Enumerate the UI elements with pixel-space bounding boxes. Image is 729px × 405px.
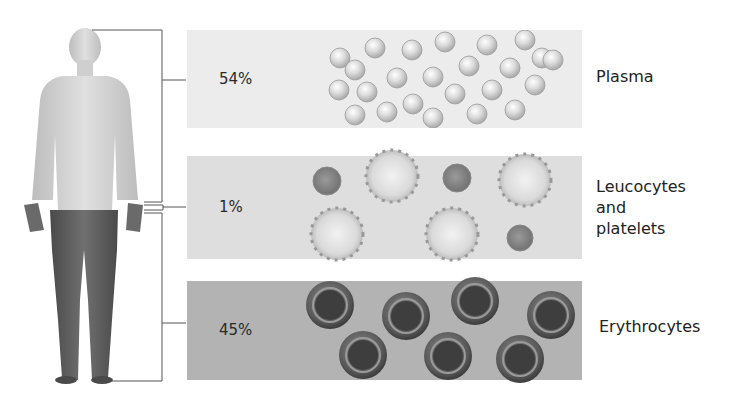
- erythrocytes-panel: 45%: [187, 281, 582, 380]
- leucocytes-label-line-3: platelets: [596, 218, 686, 239]
- leucocytes-label-line-2: and: [596, 197, 686, 218]
- leucocytes-label-line-1: Leucocytes: [596, 176, 686, 197]
- plasma-panel: 54%: [187, 30, 582, 128]
- leucocyte-cells: [187, 156, 582, 276]
- erythrocytes-label: Erythrocytes: [599, 316, 700, 337]
- plasma-droplets: [187, 30, 582, 128]
- leucocytes-label: Leucocytes and platelets: [596, 176, 686, 239]
- leucocytes-panel: 1%: [187, 156, 582, 259]
- plasma-label: Plasma: [596, 66, 654, 87]
- human-figure: [24, 28, 143, 384]
- erythrocyte-cells: [187, 281, 582, 391]
